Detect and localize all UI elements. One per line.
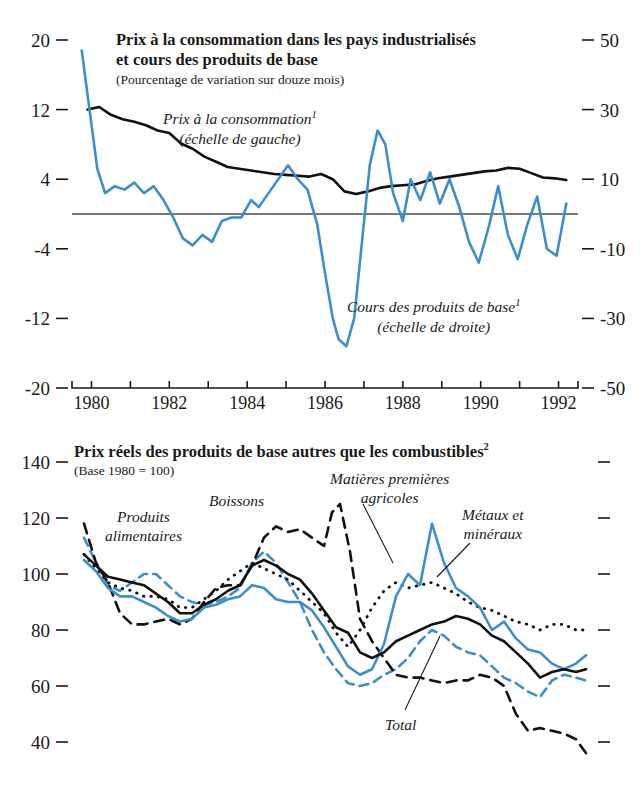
y-tick-label-right: -50 [600,378,625,399]
y-tick-label-left: 20 [31,30,50,51]
series-label-total-text: Total [385,716,416,735]
y-tick-label-left: 120 [22,508,51,529]
leader-total [405,636,440,710]
x-tick-label: 1980 [73,393,109,413]
chart-top-title-line2: et cours des produits de base [116,50,546,70]
y-tick-label-left: 60 [31,676,50,697]
y-tick-label-left: 80 [31,620,50,641]
series-label-metals-line1: Métaux et [462,506,524,525]
series-label-food-line1: Produits [105,508,182,527]
chart-top-header: Prix à la consommation dans les pays ind… [116,30,546,89]
chart-bottom-canvas: 140120100806040 [0,430,641,791]
series-line-consumer-prices [88,107,567,194]
series-label-total: Total [385,716,416,735]
chart-consumer-prices-commodity-prices: 20124-4-12-20503010-10-30-50198019821984… [0,0,641,430]
leader-agricultural-raw-materials [363,504,393,563]
series-label-commodity-prices-scale: (échelle de droite) [347,317,520,336]
series-label-metals-line2: minéraux [462,525,524,544]
footnote-marker-1b: 1 [515,297,520,308]
y-tick-label-right: -10 [600,239,625,260]
series-label-commodity-prices: Cours des produits de base1 (échelle de … [347,296,520,336]
x-tick-label: 1990 [463,393,499,413]
x-tick-label: 1982 [151,393,187,413]
series-label-commodity-prices-text: Cours des produits de base [347,298,515,315]
footnote-marker-1: 1 [312,109,317,120]
x-tick-label: 1984 [229,393,265,413]
x-tick-label: 1988 [385,393,421,413]
series-label-agricultural-raw-materials: Matières premières agricoles [330,470,449,507]
series-line-food-products [84,538,586,698]
y-tick-label-left: -12 [25,308,50,329]
y-tick-label-left: 4 [41,169,51,190]
y-tick-label-right: 50 [600,30,619,51]
footnote-marker-2: 2 [484,441,489,452]
y-tick-label-left: 40 [31,732,50,753]
series-label-food-products: Produits alimentaires [105,508,182,545]
y-tick-label-left: 12 [31,100,50,121]
series-line-metals-minerals [84,524,586,675]
chart-bottom-title: Prix réels des produits de base autres q… [74,442,484,461]
series-label-consumer-prices: Prix à la consommation1 (échelle de gauc… [163,108,317,148]
chart-top-subtitle: (Pourcentage de variation sur douze mois… [116,71,546,89]
y-tick-label-left: -20 [25,378,50,399]
series-label-consumer-prices-scale: (échelle de gauche) [163,129,317,148]
series-label-food-line2: alimentaires [105,527,182,546]
chart-real-commodity-prices: 140120100806040 Prix réels des produits … [0,430,641,791]
chart-top-title-line1: Prix à la consommation dans les pays ind… [116,30,546,50]
series-label-agri-line1: Matières premières [330,470,449,489]
series-label-beverages-line1: Boissons [209,492,264,511]
y-tick-label-right: -30 [600,308,625,329]
series-label-consumer-prices-text: Prix à la consommation [163,110,312,127]
y-tick-label-right: 30 [600,100,619,121]
series-label-beverages: Boissons [209,492,264,511]
series-label-metals-minerals: Métaux et minéraux [462,506,524,543]
x-tick-label: 1992 [541,393,577,413]
series-line-total [84,554,586,677]
y-tick-label-left: 140 [22,452,51,473]
series-label-agri-line2: agricoles [330,489,449,508]
y-tick-label-left: 100 [22,564,51,585]
x-tick-label: 1986 [307,393,343,413]
y-tick-label-left: -4 [34,239,50,260]
y-tick-label-right: 10 [600,169,619,190]
